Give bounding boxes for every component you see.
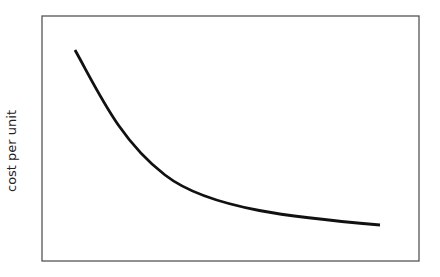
y-axis-label: cost per unit xyxy=(4,110,19,192)
cost-curve xyxy=(75,50,380,225)
chart xyxy=(0,0,440,277)
